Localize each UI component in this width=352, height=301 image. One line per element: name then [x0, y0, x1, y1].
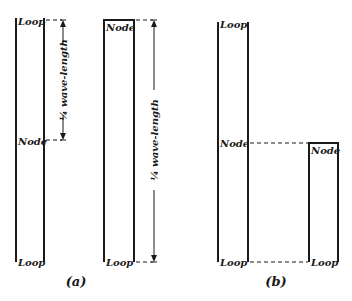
label-loop-bottom: Loop: [219, 257, 247, 268]
dimension-label: ¼ wave-length: [58, 39, 69, 121]
label-loop-bottom: Loop: [17, 257, 45, 268]
closed-pipe-a: Node Loop ¼ wave-length: [104, 20, 160, 268]
label-loop-top: Loop: [219, 19, 247, 30]
label-node-middle: Node: [219, 138, 249, 149]
label-loop-bottom: Loop: [105, 257, 133, 268]
pipe-walls: [309, 143, 338, 262]
pipe-walls: [104, 20, 134, 262]
panel-b: Loop Node Loop Node Loop (b): [218, 19, 340, 289]
panel-a: Loop Node Loop ¼ wave-length Node Loop: [16, 16, 160, 289]
dimension-label: ¼ wave-length: [149, 99, 160, 181]
caption-a: (a): [66, 274, 87, 289]
closed-pipe-b: Node Loop: [309, 143, 340, 268]
label-node-top: Node: [310, 145, 340, 156]
caption-b: (b): [265, 274, 286, 289]
label-node-top: Node: [105, 22, 135, 33]
open-pipe-b: Loop Node Loop: [218, 19, 249, 268]
label-loop-top: Loop: [17, 16, 45, 27]
label-node-middle: Node: [17, 136, 47, 147]
wave-diagram: Loop Node Loop ¼ wave-length Node Loop: [0, 0, 352, 301]
label-loop-bottom: Loop: [310, 257, 338, 268]
open-pipe-a: Loop Node Loop ¼ wave-length: [16, 16, 69, 268]
